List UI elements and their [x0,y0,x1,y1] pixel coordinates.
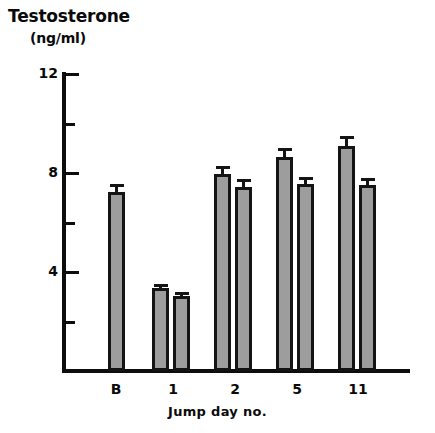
bar-11-1 [359,185,376,371]
x-axis-title: Jump day no. [0,404,435,419]
error-bar-cap-5-0 [278,148,292,151]
y-tick-major-12 [66,73,79,76]
y-tick-major-4 [66,271,79,274]
bar-2-1 [235,187,252,371]
y-tick-major-8 [66,172,79,175]
y-tick-label-8: 8 [18,164,58,180]
error-bar-cap-2-0 [216,166,230,169]
bar-1-1 [173,296,190,371]
x-tick-label-11: 11 [333,381,383,397]
error-bar-cap-1-1 [175,292,189,295]
error-bar-cap-1-0 [154,284,168,287]
y-tick-label-12: 12 [18,65,58,81]
y-tick-minor-6 [66,222,75,225]
y-tick-label-4: 4 [18,263,58,279]
x-tick-label-B: B [91,381,141,397]
x-tick-label-2: 2 [210,381,260,397]
bar-2-0 [214,174,231,371]
error-bar-cap-11-1 [361,178,375,181]
bar-5-1 [297,184,314,371]
bar-11-0 [338,146,355,371]
y-tick-minor-2 [66,321,75,324]
error-bar-cap-B-0 [110,184,124,187]
error-bar-cap-2-1 [237,179,251,182]
bar-B-0 [108,192,125,371]
plot-area: 4812 B12511 Jump day no. [0,0,435,433]
y-tick-minor-10 [66,123,75,126]
bar-5-0 [276,157,293,371]
error-bar-cap-11-0 [340,136,354,139]
testosterone-bar-chart: Testosterone (ng/ml) 4812 B12511 Jump da… [0,0,435,433]
bar-1-0 [152,288,169,371]
x-tick-label-5: 5 [272,381,322,397]
error-bar-cap-5-1 [299,177,313,180]
x-tick-label-1: 1 [148,381,198,397]
